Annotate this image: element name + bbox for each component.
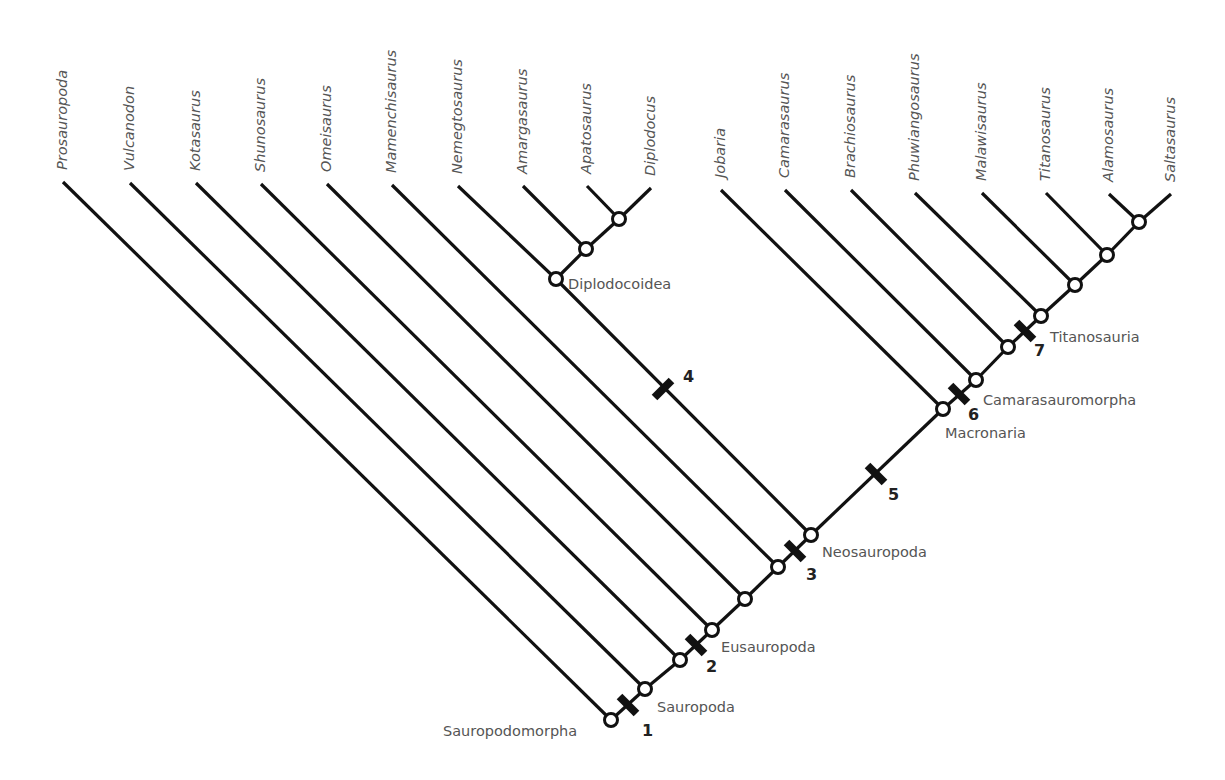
synapomorphy-number: 6 xyxy=(968,405,979,424)
clade-label-neosauropoda: Neosauropoda xyxy=(822,544,927,560)
node-circle xyxy=(580,243,593,256)
branch-phuwiangosaurus xyxy=(915,193,1041,316)
node-circle xyxy=(1002,341,1015,354)
taxon-labels: ProsauropodaVulcanodonKotasaurusShunosau… xyxy=(54,49,1178,183)
node-circle xyxy=(1133,216,1146,229)
synapomorphy-number: 3 xyxy=(806,565,817,584)
taxon-label: Jobaria xyxy=(712,128,728,181)
taxon-label: Titanosaurus xyxy=(1037,87,1053,181)
clade-label-macronaria: Macronaria xyxy=(945,425,1026,441)
node-circle xyxy=(772,561,785,574)
node-circle xyxy=(639,683,652,696)
taxon-label: Saltasaurus xyxy=(1162,97,1178,182)
taxon-label: Malawisaurus xyxy=(973,82,989,181)
node-circle xyxy=(805,529,818,542)
node-circle xyxy=(550,273,563,286)
clade-label-titanosauria: Titanosauria xyxy=(1049,329,1140,345)
branch-amargasaurus xyxy=(523,186,586,249)
branch-omeisaurus xyxy=(327,184,745,599)
taxon-label: Diplodocus xyxy=(642,95,658,176)
node-circle xyxy=(1101,249,1114,262)
taxon-label: Vulcanodon xyxy=(121,86,137,171)
node-circle xyxy=(605,714,618,727)
node-circle xyxy=(937,403,950,416)
synapomorphy-number: 2 xyxy=(706,657,717,676)
taxon-label: Omeisaurus xyxy=(318,85,334,172)
synapomorphy-bar xyxy=(655,381,672,398)
branch-shunosaurus xyxy=(261,184,712,630)
node-circle xyxy=(613,213,626,226)
synapomorphy-number: 1 xyxy=(642,721,653,740)
branch-lines xyxy=(63,182,1171,720)
taxon-label: Apatosaurus xyxy=(578,83,594,175)
branch-vulcanodon xyxy=(130,183,645,689)
clade-label-camarasauromorpha: Camarasauromorpha xyxy=(983,392,1136,408)
taxon-label: Prosauropoda xyxy=(54,70,70,170)
internal-branch xyxy=(556,279,811,535)
taxon-label: Phuwiangosaurus xyxy=(906,53,922,181)
branch-jobaria xyxy=(721,190,943,409)
synapomorphy-number: 7 xyxy=(1034,341,1045,360)
taxon-label: Shunosaurus xyxy=(252,78,268,172)
branch-brachiosaurus xyxy=(851,190,1008,347)
node-circle xyxy=(970,374,983,387)
clade-label-sauropodomorpha: Sauropodomorpha xyxy=(443,723,577,739)
taxon-label: Alamosaurus xyxy=(1100,87,1116,183)
taxon-label: Brachiosaurus xyxy=(842,74,858,178)
taxon-label: Nemegtosaurus xyxy=(449,59,465,174)
clade-label-eusauropoda: Eusauropoda xyxy=(721,639,816,655)
clade-label-sauropoda: Sauropoda xyxy=(657,699,735,715)
synapomorphy-number: 5 xyxy=(888,485,899,504)
branch-kotasaurus xyxy=(196,183,680,660)
taxon-label: Kotasaurus xyxy=(187,90,203,171)
taxon-label: Amargasaurus xyxy=(514,68,530,175)
node-circle xyxy=(739,593,752,606)
synapomorphy-number: 4 xyxy=(683,367,694,386)
node-circle xyxy=(1035,310,1048,323)
clade-label-diplodocoidea: Diplodocoidea xyxy=(568,276,671,292)
node-circle xyxy=(674,654,687,667)
branch-titanosaurus xyxy=(1046,193,1107,255)
cladogram: ProsauropodaVulcanodonKotasaurusShunosau… xyxy=(0,0,1225,780)
node-circle xyxy=(1069,279,1082,292)
taxon-label: Camarasaurus xyxy=(776,72,792,178)
taxon-label: Mamenchisaurus xyxy=(383,49,399,173)
node-circle xyxy=(706,624,719,637)
